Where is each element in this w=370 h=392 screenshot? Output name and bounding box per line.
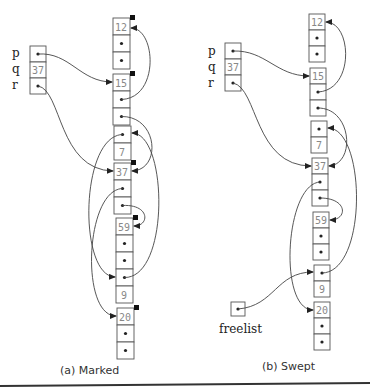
root-label-r: r: [12, 78, 18, 92]
heap-object-7: 7: [311, 121, 327, 153]
mark-bit-icon: [131, 160, 136, 165]
heap-object-9: 9: [116, 269, 133, 303]
mark-bit-icon: [130, 71, 135, 76]
svg-text:37: 37: [116, 167, 128, 178]
heap-object-9: 9: [314, 265, 330, 297]
svg-text:15: 15: [312, 71, 324, 82]
svg-text:37: 37: [314, 161, 326, 172]
root-label-q: q: [12, 62, 20, 76]
heap-object-59: 59: [116, 215, 138, 269]
caption-marked: (a) Marked: [60, 364, 119, 377]
svg-text:12: 12: [311, 17, 323, 28]
heap-object-20: 20: [117, 305, 139, 359]
heap-object-7: 7: [114, 126, 131, 160]
mark-bit-icon: [130, 15, 135, 20]
bottom-rule: [0, 383, 370, 386]
svg-text:9: 9: [121, 290, 127, 301]
root-label-q: q: [208, 60, 216, 74]
caption-swept: (b) Swept: [262, 360, 316, 373]
svg-text:59: 59: [118, 222, 130, 233]
heap-object-20: 20: [314, 302, 330, 350]
panel-swept: p q r 37 12 15: [208, 14, 357, 373]
mark-sweep-diagram: p q r 37 12 15: [0, 0, 370, 392]
root-q-value: 37: [32, 65, 44, 76]
svg-text:7: 7: [316, 140, 322, 151]
freelist-label: freelist: [219, 322, 262, 336]
svg-text:7: 7: [119, 147, 125, 158]
root-object: 37: [225, 43, 241, 91]
mark-bit-icon: [133, 215, 138, 220]
svg-text:20: 20: [119, 312, 131, 323]
root-label-p: p: [12, 46, 20, 60]
pointer-arrows: [38, 28, 159, 316]
root-q-value: 37: [227, 62, 239, 73]
panel-marked: p q r 37 12 15: [12, 15, 159, 377]
root-label-r: r: [208, 76, 214, 90]
mark-bit-icon: [134, 305, 139, 310]
root-object: 37: [30, 46, 46, 94]
heap-object-12: 12: [113, 15, 135, 69]
svg-text:15: 15: [115, 78, 127, 89]
heap-object-59: 59: [313, 212, 329, 260]
freelist-root: freelist: [219, 302, 262, 336]
svg-text:59: 59: [315, 215, 327, 226]
svg-text:12: 12: [115, 22, 127, 33]
svg-text:9: 9: [319, 284, 325, 295]
root-label-p: p: [208, 44, 216, 58]
heap-object-12: 12: [309, 14, 325, 62]
pointer-arrows: [233, 22, 357, 310]
svg-text:20: 20: [316, 305, 328, 316]
